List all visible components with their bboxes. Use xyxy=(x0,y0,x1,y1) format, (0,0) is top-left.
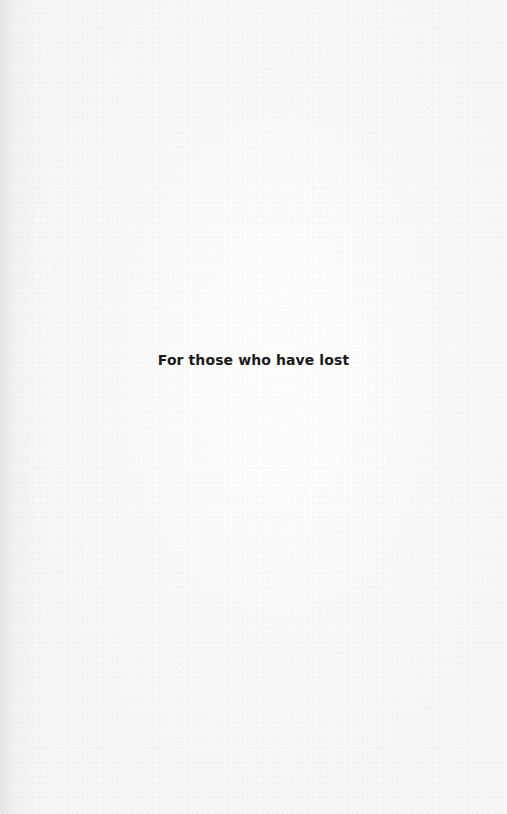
book-page: For those who have lost xyxy=(0,0,507,814)
dedication-text: For those who have lost xyxy=(0,352,507,368)
paper-texture xyxy=(0,0,507,814)
